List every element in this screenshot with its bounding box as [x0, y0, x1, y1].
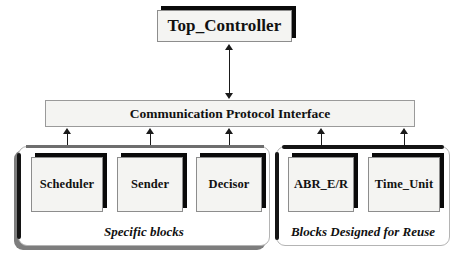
group-edge-top: [26, 145, 264, 148]
arrow-head-down-icon: [225, 93, 233, 99]
block-time-unit[interactable]: Time_Unit: [368, 157, 440, 212]
block-label-abr-e-r: ABR_E/R: [294, 177, 348, 192]
block-label-scheduler: Scheduler: [40, 177, 94, 192]
block-label-sender: Sender: [131, 177, 169, 192]
block-label-top-controller: Top_Controller: [168, 16, 282, 36]
group-label-specific-blocks: Specific blocks: [18, 224, 270, 240]
arrow-stem: [229, 48, 230, 95]
block-communication-protocol-interface[interactable]: Communication Protocol Interface: [45, 100, 415, 127]
block-face: Scheduler: [31, 157, 103, 212]
block-abr-e-r[interactable]: ABR_E/R: [288, 157, 354, 212]
block-scheduler[interactable]: Scheduler: [31, 157, 103, 212]
block-face: Time_Unit: [368, 157, 440, 212]
group-label-blocks-designed-for-reuse: Blocks Designed for Reuse: [276, 224, 450, 240]
block-decisor[interactable]: Decisor: [196, 157, 262, 212]
block-label-decisor: Decisor: [209, 177, 250, 192]
block-face: Decisor: [196, 157, 262, 212]
block-face: ABR_E/R: [288, 157, 354, 212]
block-face: Sender: [117, 157, 183, 212]
block-label-time-unit: Time_Unit: [375, 177, 433, 192]
diagram-canvas: Top_Controller Communication Protocol In…: [0, 0, 457, 255]
block-sender[interactable]: Sender: [117, 157, 183, 212]
block-top-controller[interactable]: Top_Controller: [157, 10, 292, 42]
block-label-communication-protocol-interface: Communication Protocol Interface: [130, 106, 331, 122]
block-face: Top_Controller: [157, 10, 292, 42]
connector-top-controller-to-interface: [225, 44, 234, 99]
group-edge-top: [282, 145, 444, 149]
